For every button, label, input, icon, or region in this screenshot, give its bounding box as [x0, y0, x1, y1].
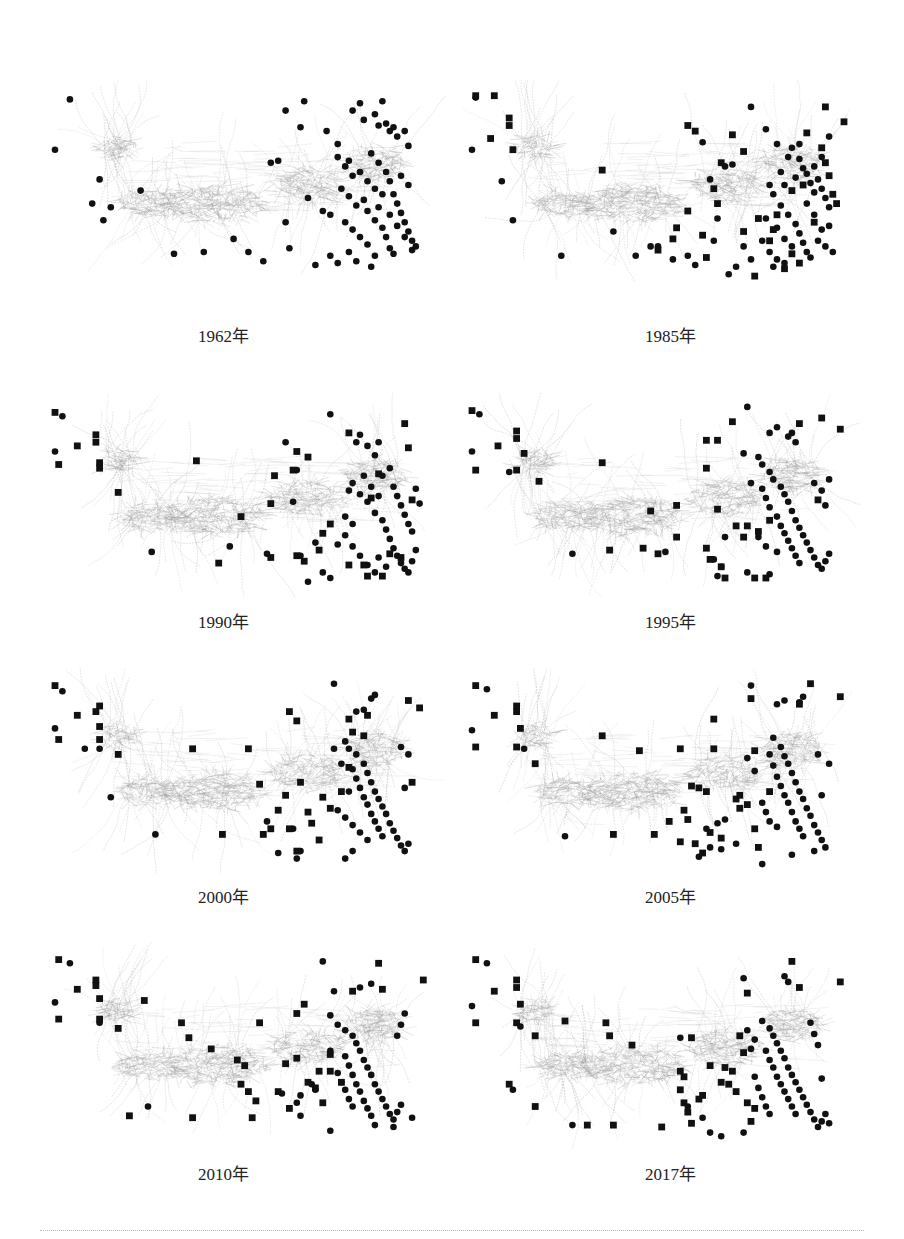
square-marker — [681, 1073, 688, 1080]
circle-marker — [484, 960, 491, 967]
circle-marker — [346, 1096, 353, 1103]
square-marker — [319, 1099, 326, 1106]
circle-marker — [82, 746, 89, 753]
circle-marker — [748, 256, 755, 263]
network-map-plot — [462, 80, 862, 290]
square-marker — [360, 562, 367, 569]
network-map-plot — [462, 942, 862, 1152]
square-marker — [729, 131, 736, 138]
circle-marker — [401, 128, 408, 135]
square-marker — [286, 825, 293, 832]
square-marker — [495, 443, 502, 450]
circle-marker — [390, 1116, 397, 1123]
circle-marker — [390, 251, 397, 258]
square-marker — [513, 744, 520, 751]
square-marker — [267, 825, 274, 832]
circle-marker — [800, 239, 807, 246]
circle-marker — [778, 744, 785, 751]
square-marker — [718, 835, 725, 842]
square-marker — [722, 575, 729, 582]
circle-marker — [361, 794, 368, 801]
square-marker — [688, 783, 695, 790]
circle-marker — [822, 502, 829, 509]
circle-marker — [718, 846, 725, 853]
circle-marker — [372, 111, 379, 118]
square-marker — [629, 1042, 636, 1049]
square-marker — [267, 554, 274, 561]
square-marker — [327, 805, 334, 812]
circle-marker — [744, 1027, 751, 1034]
circle-marker — [409, 247, 416, 254]
square-marker — [818, 144, 825, 151]
circle-marker — [349, 172, 356, 179]
panel-year-label: 1985年 — [645, 322, 696, 347]
circle-marker — [789, 852, 796, 859]
circle-marker — [372, 1081, 379, 1088]
circle-marker — [740, 975, 747, 982]
circle-marker — [826, 476, 833, 483]
circle-marker — [342, 1087, 349, 1094]
square-marker — [718, 159, 725, 166]
square-marker — [748, 695, 755, 702]
circle-marker — [398, 1101, 405, 1108]
circle-marker — [372, 569, 379, 576]
circle-marker — [748, 682, 755, 689]
circle-marker — [714, 573, 721, 580]
circle-marker — [670, 256, 677, 263]
circle-marker — [372, 818, 379, 825]
circle-marker — [387, 212, 394, 219]
circle-marker — [334, 141, 341, 148]
circle-marker — [469, 448, 476, 455]
square-marker — [245, 1088, 252, 1095]
circle-marker — [405, 840, 412, 847]
circle-marker — [394, 200, 401, 207]
square-marker — [316, 837, 323, 844]
circle-marker — [96, 746, 103, 753]
square-marker — [420, 977, 427, 984]
circle-marker — [759, 1018, 766, 1025]
circle-marker — [387, 536, 394, 543]
square-marker — [729, 418, 736, 425]
circle-marker — [398, 210, 405, 217]
circle-marker — [342, 1053, 349, 1060]
square-marker — [74, 443, 81, 450]
circle-marker — [792, 174, 799, 181]
circle-marker — [349, 480, 356, 487]
square-marker — [755, 215, 762, 222]
circle-marker — [826, 204, 833, 211]
circle-marker — [610, 228, 617, 235]
circle-marker — [766, 504, 773, 511]
square-marker — [491, 92, 498, 99]
circle-marker — [826, 760, 833, 767]
circle-marker — [349, 1033, 356, 1040]
circle-marker — [770, 734, 777, 741]
circle-marker — [416, 500, 423, 507]
square-marker — [293, 552, 300, 559]
circle-marker — [826, 1120, 833, 1127]
circle-marker — [740, 1129, 747, 1136]
circle-marker — [282, 107, 289, 114]
circle-marker — [305, 195, 312, 202]
circle-marker — [759, 1094, 766, 1101]
circle-marker — [364, 1105, 371, 1112]
square-marker — [93, 708, 100, 715]
square-marker — [703, 465, 710, 472]
square-marker — [260, 831, 267, 838]
square-marker — [803, 130, 810, 137]
square-marker — [249, 1114, 256, 1121]
circle-marker — [807, 180, 814, 187]
square-marker — [115, 1025, 122, 1032]
square-marker — [688, 1120, 695, 1127]
circle-marker — [774, 701, 781, 708]
circle-marker — [766, 430, 773, 437]
square-marker — [751, 575, 758, 582]
circle-marker — [818, 487, 825, 494]
circle-marker — [368, 150, 375, 157]
circle-marker — [346, 158, 353, 165]
square-marker — [286, 708, 293, 715]
circle-marker — [59, 413, 66, 420]
circle-marker — [312, 539, 319, 546]
square-marker — [256, 781, 263, 788]
circle-marker — [364, 208, 371, 215]
square-marker — [603, 1019, 610, 1026]
